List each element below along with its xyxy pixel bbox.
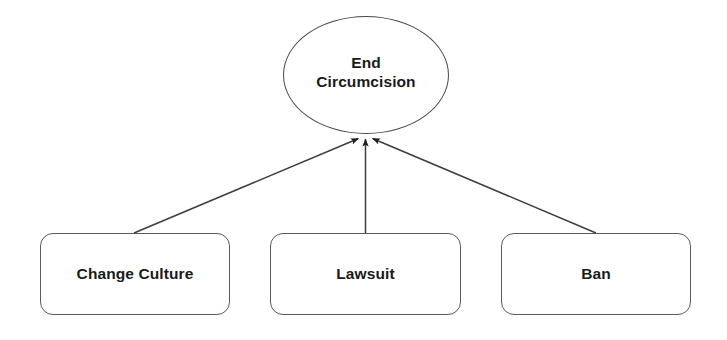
strategy-node-label: Ban (581, 265, 611, 283)
strategy-node-label: Lawsuit (336, 265, 394, 283)
strategy-node-lawsuit[interactable]: Lawsuit (270, 233, 461, 315)
strategy-node-label: Change Culture (77, 265, 194, 283)
goal-node-end-circumcision[interactable]: End Circumcision (283, 16, 449, 134)
edge-change-culture-to-goal (134, 139, 359, 234)
goal-node-label: End Circumcision (316, 54, 415, 91)
strategy-node-change-culture[interactable]: Change Culture (40, 233, 230, 315)
diagram-canvas: End Circumcision Change Culture Lawsuit … (0, 0, 727, 340)
edge-ban-to-goal (373, 139, 597, 234)
strategy-node-ban[interactable]: Ban (501, 233, 691, 315)
